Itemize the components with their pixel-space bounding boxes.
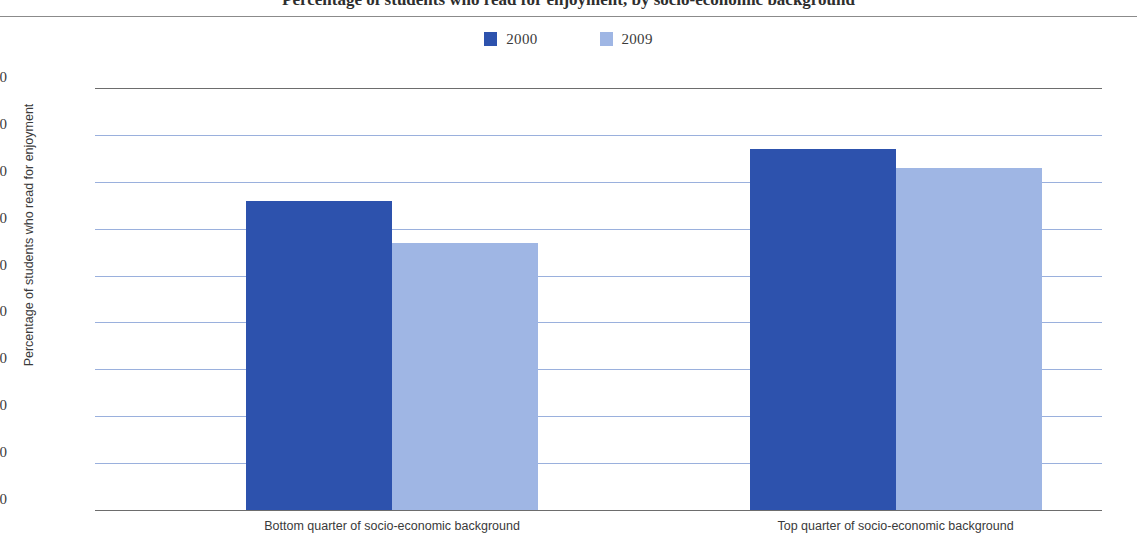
- chart-legend: 20002009: [0, 28, 1137, 50]
- page-title: Percentage of students who read for enjo…: [0, 0, 1137, 13]
- y-tick-label-80: 80: [0, 135, 7, 154]
- plot-area: 9080706050403020100: [95, 88, 1102, 510]
- bar-2000-cat0: [246, 201, 392, 510]
- x-category-label-1: Top quarter of socio-economic background: [392, 519, 1137, 533]
- y-tick-label-20: 20: [0, 416, 7, 435]
- gridline-90: [95, 88, 1102, 89]
- y-tick-label-30: 30: [0, 369, 7, 388]
- header-divider: [0, 16, 1137, 17]
- y-tick-label-40: 40: [0, 322, 7, 341]
- bar-2000-cat1: [750, 149, 896, 510]
- gridline-80: [95, 135, 1102, 136]
- chart-page: Percentage of students who read for enjo…: [0, 0, 1137, 545]
- y-tick-label-70: 70: [0, 182, 7, 201]
- gridline-0: [95, 510, 1102, 511]
- bar-2009-cat1: [896, 168, 1042, 510]
- legend-label: 2009: [622, 31, 653, 48]
- y-tick-label-60: 60: [0, 229, 7, 248]
- legend-item-2009: 2009: [600, 31, 653, 48]
- bar-2009-cat0: [392, 243, 538, 510]
- legend-item-2000: 2000: [484, 31, 537, 48]
- chart-title-clipped: Percentage of students who read for enjo…: [0, 0, 1137, 13]
- legend-label: 2000: [506, 31, 537, 48]
- legend-swatch-icon: [484, 32, 497, 46]
- y-tick-label-50: 50: [0, 276, 7, 295]
- y-axis-title: Percentage of students who read for enjo…: [22, 15, 40, 455]
- y-tick-label-90: 90: [0, 88, 7, 107]
- legend-swatch-icon: [600, 32, 613, 46]
- y-tick-label-10: 10: [0, 463, 7, 482]
